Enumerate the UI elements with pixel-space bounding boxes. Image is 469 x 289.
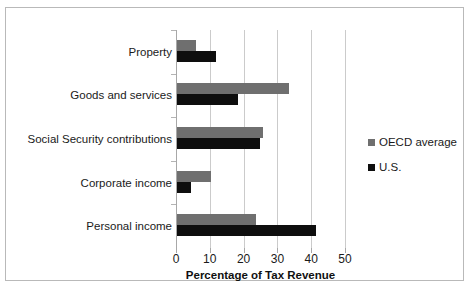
chart-legend: OECD averageU.S. bbox=[368, 136, 466, 186]
bar-oecd-average[interactable] bbox=[177, 40, 196, 51]
x-axis-title: Percentage of Tax Revenue bbox=[176, 269, 345, 281]
chart-frame: Personal incomeCorporate incomeSocial Se… bbox=[5, 7, 464, 281]
category-label: Goods and services bbox=[12, 89, 172, 101]
category-label: Social Security contributions bbox=[12, 133, 172, 145]
bar-us[interactable] bbox=[177, 138, 260, 149]
value-tick-label: 30 bbox=[262, 252, 292, 266]
gridline bbox=[311, 30, 312, 248]
legend-item[interactable]: U.S. bbox=[368, 161, 466, 173]
bar-oecd-average[interactable] bbox=[177, 127, 263, 138]
value-tick-label: 50 bbox=[330, 252, 360, 266]
legend-item[interactable]: OECD average bbox=[368, 136, 466, 148]
bar-oecd-average[interactable] bbox=[177, 83, 289, 94]
gridline bbox=[277, 30, 278, 248]
legend-swatch-icon bbox=[368, 139, 375, 146]
legend-label: OECD average bbox=[379, 136, 457, 148]
value-tick-label: 40 bbox=[296, 252, 326, 266]
category-axis-labels: Personal incomeCorporate incomeSocial Se… bbox=[9, 30, 172, 248]
legend-label: U.S. bbox=[379, 161, 401, 173]
bar-us[interactable] bbox=[177, 51, 216, 62]
category-label: Property bbox=[12, 46, 172, 58]
category-label: Corporate income bbox=[12, 177, 172, 189]
category-label: Personal income bbox=[12, 220, 172, 232]
chart-figure: Personal incomeCorporate incomeSocial Se… bbox=[0, 0, 469, 289]
value-tick-label: 20 bbox=[229, 252, 259, 266]
bar-oecd-average[interactable] bbox=[177, 214, 256, 225]
plot-area bbox=[176, 30, 345, 248]
bar-us[interactable] bbox=[177, 225, 316, 236]
gridline bbox=[345, 30, 346, 248]
bar-us[interactable] bbox=[177, 182, 191, 193]
bar-oecd-average[interactable] bbox=[177, 171, 211, 182]
value-tick-label: 0 bbox=[161, 252, 191, 266]
bar-us[interactable] bbox=[177, 94, 238, 105]
value-tick-label: 10 bbox=[195, 252, 225, 266]
value-axis-tick-labels: 01020304050 bbox=[176, 252, 345, 268]
legend-swatch-icon bbox=[368, 164, 375, 171]
